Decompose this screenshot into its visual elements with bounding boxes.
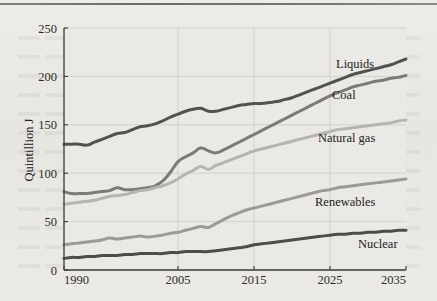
series-label-nuclear: Nuclear: [358, 237, 398, 251]
y-tick-label: 100: [38, 167, 57, 181]
y-axis-tick-labels: 050100150200250: [38, 22, 57, 278]
series-label-liquids: Liquids: [336, 57, 374, 71]
chart-svg: 050100150200250 19902005201520252035 Liq…: [0, 0, 437, 301]
y-tick-label: 50: [45, 215, 58, 229]
series-label-renewables: Renewables: [315, 195, 376, 209]
y-tick-label: 250: [38, 22, 57, 36]
x-tick-label: 1990: [64, 273, 89, 287]
series-label-coal: Coal: [332, 88, 356, 102]
energy-sources-line-chart: 050100150200250 19902005201520252035 Liq…: [0, 0, 437, 301]
y-tick-label: 0: [51, 264, 57, 278]
x-axis-tick-labels: 19902005201520252035: [64, 273, 406, 287]
x-tick-label: 2025: [318, 273, 343, 287]
x-tick-label: 2015: [242, 273, 267, 287]
x-tick-label: 2005: [166, 273, 191, 287]
y-tick-label: 200: [38, 70, 57, 84]
series-label-natural-gas: Natural gas: [318, 131, 375, 145]
y-tick-label: 150: [38, 118, 57, 132]
x-tick-label: 2035: [381, 273, 406, 287]
y-axis-title: Quintillion J: [22, 118, 36, 181]
